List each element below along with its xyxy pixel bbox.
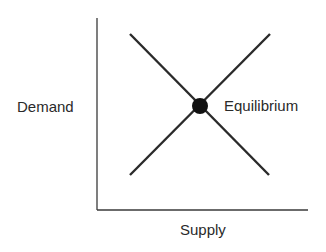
supply-demand-diagram: Demand Equilibrium Supply xyxy=(0,0,326,252)
diagram-graphics xyxy=(0,0,326,252)
equilibrium-label: Equilibrium xyxy=(224,98,298,113)
equilibrium-point xyxy=(192,98,208,114)
y-axis-label: Demand xyxy=(17,99,74,114)
x-axis-label: Supply xyxy=(180,222,226,237)
